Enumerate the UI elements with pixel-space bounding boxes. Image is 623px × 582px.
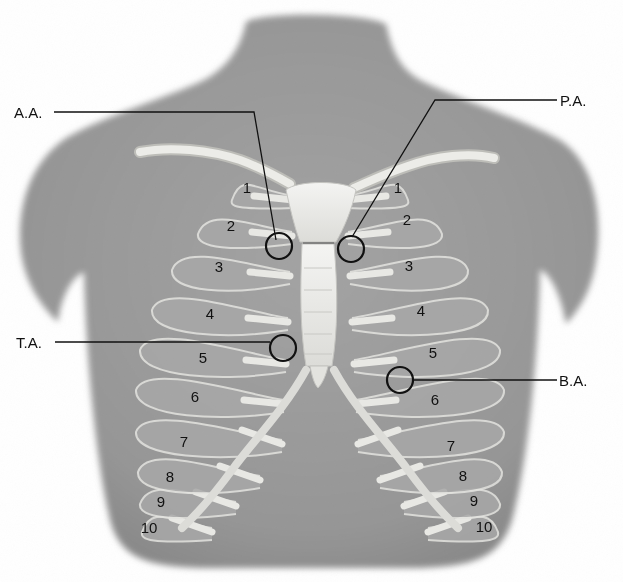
bicuspid-area-label: B.A.	[559, 373, 587, 388]
rib-label-right-5: 5	[429, 345, 437, 360]
costal-cartilage-left-6	[244, 400, 284, 404]
costal-cartilage-right-3	[350, 272, 390, 276]
rib-label-right-8: 8	[459, 468, 467, 483]
rib-label-right-3: 3	[405, 258, 413, 273]
rib-label-right-9: 9	[470, 493, 478, 508]
rib-label-left-2: 2	[227, 218, 235, 233]
rib-label-left-3: 3	[215, 259, 223, 274]
rib-label-left-8: 8	[166, 469, 174, 484]
rib-label-right-1: 1	[394, 180, 402, 195]
rib-label-right-4: 4	[417, 303, 425, 318]
rib-label-left-4: 4	[206, 306, 214, 321]
rib-label-right-7: 7	[447, 438, 455, 453]
rib-label-right-6: 6	[431, 392, 439, 407]
rib-label-left-5: 5	[199, 350, 207, 365]
rib-label-left-9: 9	[157, 494, 165, 509]
pulmonic-area-label: P.A.	[560, 93, 586, 108]
aortic-area-label: A.A.	[14, 105, 42, 120]
rib-label-left-7: 7	[180, 434, 188, 449]
costal-cartilage-right-5	[354, 360, 394, 364]
rib-label-right-2: 2	[403, 212, 411, 227]
costal-cartilage-right-4	[352, 318, 392, 322]
costal-cartilage-left-3	[250, 272, 290, 276]
sternum-body	[301, 244, 337, 366]
costal-cartilage-right-6	[356, 400, 396, 404]
chest-illustration	[0, 0, 623, 582]
rib-label-left-1: 1	[243, 180, 251, 195]
rib-label-left-6: 6	[191, 389, 199, 404]
tricuspid-area-label: T.A.	[16, 335, 42, 350]
rib-label-right-10: 10	[476, 519, 493, 534]
costal-cartilage-left-4	[248, 318, 288, 322]
rib-label-left-10: 10	[141, 520, 158, 535]
chest-diagram: A.A. P.A. T.A. B.A. 1 2 3 4 5 6 7 8 9 10…	[0, 0, 623, 582]
